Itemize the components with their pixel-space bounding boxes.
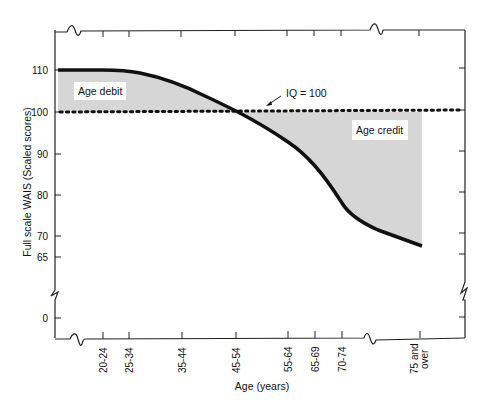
age-debit-label: Age debit (78, 85, 122, 97)
y-tick-100: 100 (31, 107, 48, 118)
y-ticks-right (459, 68, 465, 317)
y-tick-70: 70 (37, 231, 49, 242)
y-tick-labels: 110 100 90 80 70 65 0 (31, 65, 48, 324)
y-tick-0: 0 (42, 313, 48, 324)
y-tick-65: 65 (37, 252, 49, 263)
x-tick-65-69: 65-69 (310, 346, 321, 372)
x-tick-25-34: 25-34 (124, 347, 135, 373)
y-tick-110: 110 (32, 65, 48, 76)
left-axis (51, 30, 58, 338)
iq-arrow-head (266, 101, 272, 106)
x-axis-title: Age (years) (235, 380, 289, 392)
top-axis (55, 24, 465, 36)
bottom-axis (55, 334, 465, 346)
iq-label: IQ = 100 (286, 87, 327, 99)
right-axis (461, 30, 467, 338)
x-tick-70-74: 70-74 (337, 346, 348, 372)
age-credit-label: Age credit (356, 124, 403, 136)
y-axis-title: Full scale WAIS (Scaled scores) (21, 107, 33, 257)
x-tick-over: over (419, 349, 430, 369)
x-tick-20-24: 20-24 (98, 347, 109, 373)
x-tick-45-54: 45-54 (231, 347, 242, 373)
wais-age-chart: Age debit Age credit IQ = 100 110 100 90… (0, 0, 497, 413)
x-tick-35-44: 35-44 (177, 347, 188, 373)
x-tick-55-64: 55-64 (283, 346, 294, 372)
x-tick-labels: 20-24 25-34 35-44 45-54 55-64 65-69 70-7… (98, 343, 430, 374)
y-tick-90: 90 (37, 149, 49, 160)
y-tick-80: 80 (37, 190, 49, 201)
